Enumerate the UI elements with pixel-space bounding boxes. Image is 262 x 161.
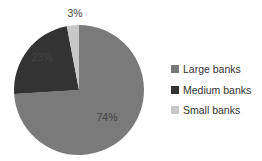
legend-item-medium-banks: Medium banks	[171, 80, 251, 101]
legend-item-small-banks: Small banks	[171, 100, 251, 121]
legend: Large banks Medium banks Small banks	[171, 59, 251, 121]
legend-label: Large banks	[183, 63, 241, 75]
pie-slices	[14, 25, 144, 155]
slice-label-small-banks: 3%	[67, 7, 82, 19]
slice-label-medium-banks: 23%	[32, 51, 53, 63]
legend-swatch-small-banks	[171, 106, 179, 114]
legend-swatch-large-banks	[171, 65, 179, 73]
legend-swatch-medium-banks	[171, 86, 179, 94]
slice-label-large-banks: 74%	[96, 111, 117, 123]
legend-item-large-banks: Large banks	[171, 59, 251, 80]
legend-label: Medium banks	[183, 84, 251, 96]
legend-label: Small banks	[183, 104, 240, 116]
